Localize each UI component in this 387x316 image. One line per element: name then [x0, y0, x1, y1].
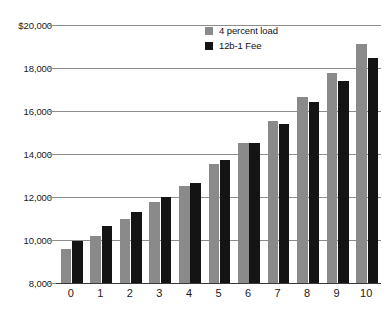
x-tick-label-3: 3 [156, 287, 162, 299]
bar-gray-5 [209, 164, 220, 283]
x-tick-label-5: 5 [215, 287, 221, 299]
x-tick-label-6: 6 [245, 287, 251, 299]
y-tick-label-20000: $20,000 [0, 20, 52, 31]
y-tick-label-12000: 12,000 [0, 192, 52, 203]
x-axis-labels: 012345678910 [56, 287, 381, 307]
bar-group-10 [351, 25, 381, 283]
bar-black-6 [249, 143, 260, 283]
x-tick-label-9: 9 [334, 287, 340, 299]
x-tick-label-0: 0 [68, 287, 74, 299]
y-axis-labels: 8,00010,00012,00014,00016,00018,000$20,0… [0, 25, 52, 283]
bar-group-1 [86, 25, 116, 283]
bar-group-4 [174, 25, 204, 283]
plot-area [56, 25, 381, 283]
legend-label-1: 4 percent load [219, 26, 278, 36]
bar-group-5 [204, 25, 234, 283]
legend-item-1: 4 percent load [205, 26, 278, 36]
bar-gray-9 [327, 73, 338, 283]
legend-label-2: 12b-1 Fee [219, 41, 261, 51]
bar-group-2 [115, 25, 145, 283]
legend-item-2: 12b-1 Fee [205, 41, 278, 51]
bar-black-0 [72, 241, 83, 283]
bar-black-3 [161, 197, 172, 283]
y-tick-mark-16000 [49, 111, 56, 112]
bar-group-6 [233, 25, 263, 283]
bar-gray-10 [356, 44, 367, 283]
x-tick-label-4: 4 [186, 287, 192, 299]
gridline-8000 [56, 283, 381, 284]
x-tick-label-10: 10 [360, 287, 372, 299]
bar-black-10 [368, 58, 379, 283]
bar-gray-0 [61, 249, 72, 283]
y-tick-label-14000: 14,000 [0, 149, 52, 160]
bar-black-7 [279, 124, 290, 283]
bar-gray-1 [90, 236, 101, 283]
x-tick-label-7: 7 [275, 287, 281, 299]
bar-chart-figure: 8,00010,00012,00014,00016,00018,000$20,0… [0, 0, 387, 316]
cut-off-title-remnant [8, 0, 238, 7]
bar-gray-2 [120, 219, 131, 284]
y-tick-mark-20000 [49, 25, 56, 26]
bar-gray-3 [149, 202, 160, 283]
bar-group-3 [145, 25, 175, 283]
bar-black-5 [220, 160, 231, 283]
bar-group-8 [292, 25, 322, 283]
bar-black-1 [102, 226, 113, 283]
bar-black-9 [338, 81, 349, 283]
bar-black-4 [190, 183, 201, 283]
chart-legend: 4 percent load12b-1 Fee [205, 26, 278, 56]
bar-gray-6 [238, 143, 249, 283]
y-tick-mark-14000 [49, 154, 56, 155]
y-tick-mark-10000 [49, 240, 56, 241]
y-tick-mark-18000 [49, 68, 56, 69]
y-tick-mark-12000 [49, 197, 56, 198]
bar-group-0 [56, 25, 86, 283]
bar-group-7 [263, 25, 293, 283]
bar-gray-8 [297, 97, 308, 283]
bar-gray-7 [268, 121, 279, 283]
bar-gray-4 [179, 186, 190, 283]
x-tick-label-1: 1 [97, 287, 103, 299]
y-tick-label-18000: 18,000 [0, 63, 52, 74]
y-tick-label-16000: 16,000 [0, 106, 52, 117]
bar-black-8 [309, 102, 320, 283]
bar-group-9 [322, 25, 352, 283]
x-tick-label-2: 2 [127, 287, 133, 299]
y-tick-label-8000: 8,000 [0, 278, 52, 289]
y-tick-label-10000: 10,000 [0, 235, 52, 246]
bar-black-2 [131, 212, 142, 283]
x-tick-label-8: 8 [304, 287, 310, 299]
gray-swatch-icon [205, 27, 213, 35]
y-tick-mark-8000 [49, 283, 56, 284]
black-swatch-icon [205, 42, 213, 50]
